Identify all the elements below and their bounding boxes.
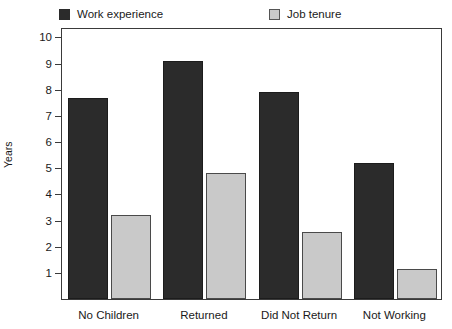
bar-group xyxy=(259,29,342,299)
bar xyxy=(111,215,151,299)
x-axis: No ChildrenReturnedDid Not ReturnNot Wor… xyxy=(61,300,442,329)
y-tick-label: 2 xyxy=(46,240,52,255)
legend-swatch-job-tenure xyxy=(269,9,280,20)
x-tick-label: No Children xyxy=(78,309,139,321)
legend-label-job-tenure: Job tenure xyxy=(287,8,341,20)
legend-swatch-work-experience xyxy=(59,9,70,20)
legend-label-work-experience: Work experience xyxy=(77,8,163,20)
plot-area xyxy=(61,28,442,300)
y-axis: Years 10987654321 xyxy=(0,28,61,300)
bar xyxy=(163,61,203,299)
y-tick-label: 8 xyxy=(46,83,52,98)
y-tick-label: 9 xyxy=(46,57,52,72)
y-tick-label: 10 xyxy=(39,30,52,45)
bar xyxy=(354,163,394,299)
bar xyxy=(206,173,246,299)
bar xyxy=(259,92,299,299)
bar xyxy=(68,98,108,299)
y-axis-title: Years xyxy=(2,142,14,168)
bar-group xyxy=(354,29,437,299)
x-tick-label: Returned xyxy=(180,309,227,321)
y-tick-label: 7 xyxy=(46,109,52,124)
chart-legend: Work experience Job tenure xyxy=(0,5,452,23)
bar-group xyxy=(163,29,246,299)
bar-chart-figure: Work experience Job tenure Years 1098765… xyxy=(0,0,452,329)
x-tick-label: Did Not Return xyxy=(261,309,337,321)
bar xyxy=(302,232,342,299)
y-tick-label: 4 xyxy=(46,187,52,202)
y-tick-label: 3 xyxy=(46,214,52,229)
bars-layer xyxy=(62,29,441,299)
legend-entry-job-tenure: Job tenure xyxy=(269,5,341,23)
x-tick-label: Not Working xyxy=(363,309,426,321)
legend-entry-work-experience: Work experience xyxy=(59,5,163,23)
y-tick-label: 1 xyxy=(46,266,52,281)
y-tick-label: 5 xyxy=(46,161,52,176)
y-tick-label: 6 xyxy=(46,135,52,150)
bar-group xyxy=(68,29,151,299)
bar xyxy=(397,269,437,299)
